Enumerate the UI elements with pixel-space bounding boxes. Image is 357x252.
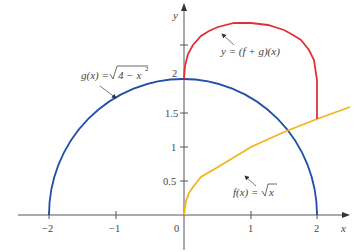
- svg-text:4 − x: 4 − x: [118, 69, 141, 81]
- g-annotation-arrow: [100, 86, 116, 98]
- x-tick-label: −1: [109, 223, 120, 234]
- function-sum-plot: x y −2 −1 0 1 2 0.5 1 1.5 2 g(x) = 4 − x…: [0, 0, 357, 252]
- svg-text:g(x) =: g(x) =: [81, 69, 109, 82]
- svg-text:2: 2: [145, 65, 149, 73]
- f-label: f(x) = x: [233, 184, 277, 199]
- fg-annotation-arrow: [222, 34, 234, 45]
- origin-label: 0: [174, 223, 179, 234]
- f-plus-g-curve: [184, 23, 317, 119]
- x-tick-label: −2: [42, 223, 53, 234]
- g-label: g(x) = 4 − x 2: [81, 65, 149, 82]
- y-tick-label: 1.5: [165, 108, 178, 119]
- y-tick-label: 2: [172, 68, 177, 79]
- y-tick-label: 0.5: [163, 176, 176, 187]
- f-curve: [184, 107, 350, 215]
- x-tick-label: 2: [314, 223, 319, 234]
- y-tick-label: 1: [171, 142, 176, 153]
- x-axis-label: x: [340, 222, 346, 234]
- y-axis-arrow-icon: [181, 3, 187, 11]
- fg-label: y = (f + g)(x): [220, 45, 280, 58]
- x-axis-arrow-icon: [342, 212, 350, 218]
- x-tick-label: 1: [248, 223, 253, 234]
- f-annotation-arrow: [245, 176, 256, 186]
- svg-text:f(x) =: f(x) =: [233, 186, 258, 199]
- y-axis-label: y: [172, 9, 178, 21]
- svg-text:x: x: [268, 186, 274, 198]
